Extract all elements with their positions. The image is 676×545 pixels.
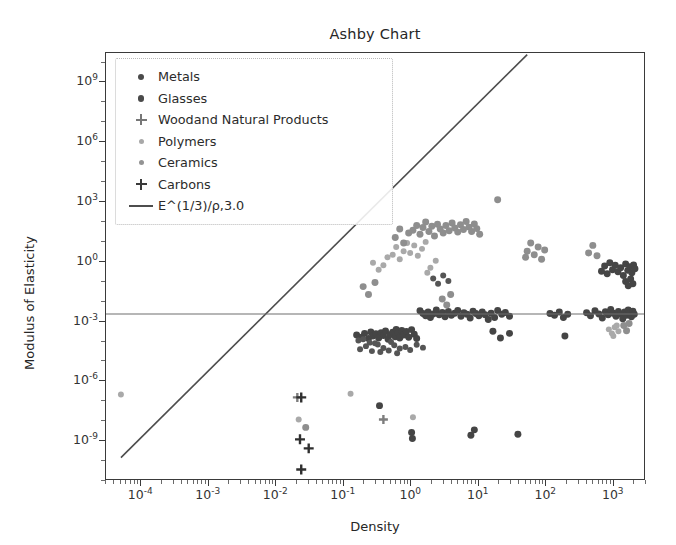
data-point xyxy=(445,278,451,284)
x-minor-tick-mark xyxy=(255,480,256,484)
x-minor-tick-mark xyxy=(578,480,579,484)
data-point xyxy=(433,258,439,264)
legend-item[interactable]: E^(1/3)/ρ,3.0 xyxy=(124,195,384,217)
data-point xyxy=(296,417,302,423)
data-point xyxy=(589,242,596,249)
x-minor-tick-mark xyxy=(363,480,364,484)
x-minor-tick-mark xyxy=(498,480,499,484)
data-point xyxy=(506,330,513,337)
data-point xyxy=(524,248,531,255)
data-point xyxy=(357,346,363,352)
x-minor-tick-mark xyxy=(530,480,531,484)
data-point xyxy=(365,291,372,298)
x-minor-tick-mark xyxy=(134,480,135,484)
legend-item[interactable]: Carbons xyxy=(124,174,384,196)
x-minor-tick-mark xyxy=(395,480,396,484)
x-minor-tick-mark xyxy=(336,480,337,484)
x-minor-tick-mark xyxy=(205,480,206,484)
x-minor-tick-mark xyxy=(120,480,121,484)
legend-item[interactable]: Ceramics xyxy=(124,152,384,174)
data-point xyxy=(629,280,636,287)
legend-item[interactable]: Glasses xyxy=(124,88,384,110)
y-tick-label: 103 xyxy=(54,193,98,208)
dot-icon xyxy=(139,160,144,165)
x-minor-tick-mark xyxy=(598,480,599,484)
x-minor-tick-mark xyxy=(610,480,611,484)
legend-dot-marker xyxy=(124,160,158,165)
data-point xyxy=(420,345,426,351)
x-minor-tick-mark xyxy=(340,480,341,484)
x-minor-tick-mark xyxy=(443,480,444,484)
x-minor-tick-mark xyxy=(463,480,464,484)
legend-item[interactable]: Polymers xyxy=(124,131,384,153)
data-point xyxy=(372,340,378,346)
data-point xyxy=(348,391,354,397)
data-point xyxy=(393,244,399,250)
x-minor-tick-mark xyxy=(535,480,536,484)
x-tick-mark xyxy=(140,480,141,486)
x-minor-tick-mark xyxy=(457,480,458,484)
data-point xyxy=(491,314,498,321)
data-point xyxy=(413,335,420,342)
x-minor-tick-mark xyxy=(130,480,131,484)
data-point xyxy=(423,239,429,245)
legend-item-label: Carbons xyxy=(158,177,211,192)
data-point xyxy=(410,414,416,420)
data-point xyxy=(386,348,392,354)
legend-line-marker xyxy=(124,205,158,207)
y-tick-label: 10-3 xyxy=(54,313,98,328)
data-point xyxy=(594,252,601,259)
x-minor-tick-mark xyxy=(518,480,519,484)
data-point xyxy=(304,443,314,453)
dot-icon xyxy=(138,95,145,102)
data-point xyxy=(435,281,441,287)
data-point xyxy=(585,249,592,256)
data-point xyxy=(405,230,412,237)
x-minor-tick-mark xyxy=(586,480,587,484)
x-tick-label: 10-1 xyxy=(318,487,368,502)
x-minor-tick-mark xyxy=(328,480,329,484)
x-minor-tick-mark xyxy=(542,480,543,484)
x-minor-tick-mark xyxy=(510,480,511,484)
data-point xyxy=(407,250,413,256)
y-tick-label: 10-6 xyxy=(54,372,98,387)
series-carbons xyxy=(295,392,314,474)
x-minor-tick-mark xyxy=(105,480,106,484)
x-minor-tick-mark xyxy=(228,480,229,484)
x-tick-label: 10-4 xyxy=(115,487,165,502)
x-minor-tick-mark xyxy=(407,480,408,484)
x-minor-tick-mark xyxy=(197,480,198,484)
page-title: Ashby Chart xyxy=(105,26,645,42)
x-minor-tick-mark xyxy=(113,480,114,484)
y-tick-label: 10-9 xyxy=(54,432,98,447)
legend-item-label: Metals xyxy=(158,69,200,84)
plus-icon xyxy=(136,179,147,190)
legend-dot-marker xyxy=(124,74,158,81)
x-minor-tick-mark xyxy=(471,480,472,484)
x-minor-tick-mark xyxy=(566,480,567,484)
legend-item[interactable]: Metals xyxy=(124,66,384,88)
x-minor-tick-mark xyxy=(451,480,452,484)
line-swatch xyxy=(129,205,153,207)
data-point xyxy=(615,328,621,334)
y-axis-label: Modulus of Elasticity xyxy=(22,236,37,370)
data-point xyxy=(538,256,545,263)
legend-item[interactable]: Woodand Natural Products xyxy=(124,109,384,131)
legend-plus-marker xyxy=(124,179,158,190)
data-point xyxy=(522,254,529,261)
data-point xyxy=(419,246,425,252)
data-point xyxy=(413,222,420,229)
x-minor-tick-mark xyxy=(390,480,391,484)
x-minor-tick-mark xyxy=(606,480,607,484)
data-point xyxy=(494,196,501,203)
legend-item-label: Polymers xyxy=(158,134,217,149)
x-minor-tick-mark xyxy=(539,480,540,484)
data-point xyxy=(392,234,399,241)
data-point xyxy=(118,392,124,398)
x-tick-mark xyxy=(275,480,276,486)
x-minor-tick-mark xyxy=(248,480,249,484)
x-minor-tick-mark xyxy=(173,480,174,484)
legend-item-label: Glasses xyxy=(158,91,207,106)
x-minor-tick-mark xyxy=(161,480,162,484)
x-tick-label: 10-2 xyxy=(250,487,300,502)
